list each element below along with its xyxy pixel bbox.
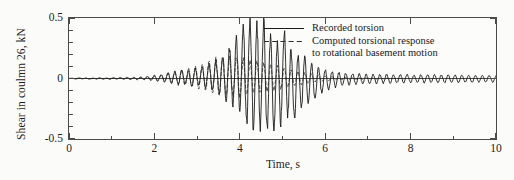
y-tick-minor [69,126,73,127]
legend-label-recorded: Recorded torsion [312,22,384,35]
x-tick-minor [197,136,198,140]
x-tick-major-top [154,18,155,24]
y-tick-major-right [490,78,496,79]
y-tick-major [69,17,75,18]
y-tick-minor [69,30,73,31]
x-tick-label: 6 [322,143,328,155]
x-tick-major [154,133,155,139]
x-tick-label: 0 [66,143,72,155]
x-tick-minor [367,136,368,140]
x-tick-major [495,133,496,139]
figure-shear-time-history: Shear in coulmn 26, kN -0.500.50246810 R… [0,0,514,180]
x-tick-major-top [68,18,69,24]
y-tick-label: -0.5 [45,133,63,145]
x-tick-minor [282,136,283,140]
x-tick-label: 8 [408,143,414,155]
y-tick-minor [69,54,73,55]
x-tick-label: 10 [490,143,502,155]
x-tick-major-top [495,18,496,24]
x-tick-major [410,133,411,139]
x-tick-label: 4 [237,143,243,155]
x-tick-minor [453,136,454,140]
x-tick-label: 2 [152,143,158,155]
y-tick-label: 0 [57,73,63,85]
x-tick-major [239,133,240,139]
legend-swatch-solid-icon [262,22,306,35]
y-axis-label: Shear in coulmn 26, kN [15,14,29,154]
legend: Recorded torsion Computed torsional resp… [262,22,438,60]
y-tick-minor [69,114,73,115]
legend-item-recorded: Recorded torsion [262,22,438,35]
legend-label-computed-line2: to rotational basement motion [262,47,438,60]
legend-item-computed: Computed torsional response [262,35,438,48]
y-tick-major [69,78,75,79]
legend-label-computed: Computed torsional response [312,35,434,48]
y-tick-major [69,138,75,139]
x-tick-major [68,133,69,139]
y-tick-minor [69,90,73,91]
y-tick-minor [69,66,73,67]
y-tick-minor [69,102,73,103]
y-tick-label: 0.5 [49,12,63,24]
y-tick-minor [69,42,73,43]
legend-swatch-dashed-icon [262,35,306,48]
x-tick-major-top [239,18,240,24]
x-tick-major [325,133,326,139]
x-tick-minor [111,136,112,140]
plot-area: -0.500.50246810 Recorded torsion Compute… [68,17,497,140]
x-axis-label: Time, s [68,158,498,170]
